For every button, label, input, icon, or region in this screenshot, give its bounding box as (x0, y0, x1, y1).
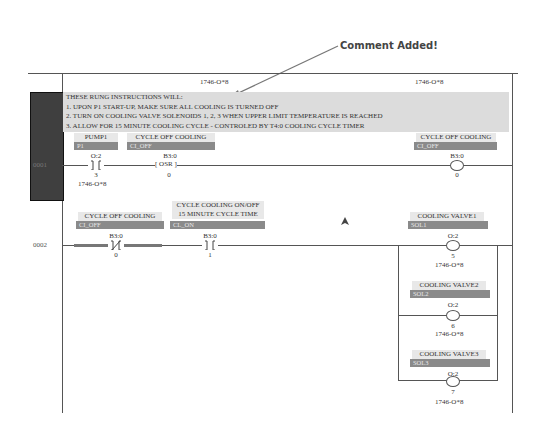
instruction-symbol: CI_OFF (414, 142, 497, 150)
instruction-symbol: CI_OFF (76, 221, 164, 229)
instruction-bit: 5 (447, 252, 459, 260)
rung-number-0001: 0001 (33, 161, 47, 169)
rung-comment[interactable]: THESE RUNG INSTRUCTIONS WILL: 1. UPON P1… (63, 92, 509, 132)
instruction-bit: 0 (451, 171, 463, 179)
instruction-bit: 3 (90, 171, 102, 179)
rung-0001-line (62, 165, 512, 166)
instruction-bit: 1 (204, 251, 216, 259)
output-coil-icon[interactable] (446, 376, 460, 387)
top-border (28, 73, 518, 74)
instruction-bit: 6 (447, 322, 459, 330)
instruction-module: 1746-O*8 (435, 261, 463, 269)
output-coil-icon[interactable] (446, 240, 460, 251)
rung-comment-line: THESE RUNG INSTRUCTIONS WILL: (66, 93, 506, 103)
branch-right-rail (497, 245, 498, 380)
instruction-address: B3:0 (157, 152, 183, 160)
instruction-module: 1746-O*8 (435, 330, 463, 338)
branch-left-rail (398, 245, 399, 380)
osr-label: OSR (159, 160, 173, 168)
instruction-description: CYCLE COOLING ON/OFF 15 MINUTE CYCLE TIM… (172, 201, 264, 219)
instruction-description: PUMP1 (74, 133, 118, 142)
mouse-cursor-icon (340, 216, 350, 226)
instruction-address: B3:0 (444, 152, 470, 160)
instruction-symbol: SOL3 (410, 359, 490, 367)
instruction-address: O:2 (84, 152, 108, 160)
output-coil-icon[interactable] (446, 310, 460, 321)
instruction-module: 1746-O*8 (78, 180, 106, 188)
instruction-address: B3:0 (103, 232, 129, 240)
instruction-address: O:2 (440, 301, 466, 309)
instruction-bit: 7 (447, 388, 459, 396)
instruction-description: CYCLE OFF COOLING (416, 133, 496, 142)
xio-contact-icon[interactable] (108, 240, 124, 250)
rung-number-0002: 0002 (33, 241, 47, 249)
rung-comment-line: 3. ALLOW FOR 15 MINUTE COOLING CYCLE - C… (66, 122, 506, 132)
instruction-symbol: SOL2 (410, 290, 490, 298)
right-power-rail (512, 73, 513, 413)
instruction-symbol: SOL1 (408, 221, 488, 229)
instruction-description: COOLING VALVE2 (412, 281, 486, 290)
instruction-description: CYCLE OFF COOLING (78, 212, 162, 221)
instruction-bit: 0 (163, 171, 175, 179)
instruction-symbol: P1 (74, 142, 118, 150)
rung-comment-line: 1. UPON P1 START-UP, MAKE SURE ALL COOLI… (66, 103, 506, 113)
rung-comment-line: 2. TURN ON COOLING VALVE SOLENOIDS 1, 2,… (66, 112, 506, 122)
instruction-module: 1746-O*8 (435, 398, 463, 406)
rung-selection-marker[interactable] (30, 92, 64, 201)
instruction-address: O:2 (440, 232, 466, 240)
module-label-right: 1746-O*8 (415, 78, 443, 86)
instruction-description-line: 15 MINUTE CYCLE TIME (172, 210, 264, 219)
instruction-bit: 0 (110, 251, 122, 259)
instruction-description: COOLING VALVE1 (410, 212, 484, 221)
instruction-description-line: CYCLE COOLING ON/OFF (172, 201, 264, 210)
xic-contact-icon[interactable] (202, 240, 218, 250)
xic-contact-icon[interactable] (88, 160, 104, 170)
module-label-left: 1746-O*8 (200, 78, 228, 86)
instruction-symbol: CL_ON (170, 221, 265, 229)
instruction-description: COOLING VALVE3 (412, 350, 486, 359)
instruction-symbol: CI_OFF (127, 142, 215, 150)
bracket-right-icon: ] (173, 160, 177, 168)
instruction-address: B3:0 (197, 232, 223, 240)
output-coil-icon[interactable] (450, 160, 464, 171)
osr-instruction[interactable]: [ OSR ] (155, 160, 177, 169)
instruction-description: CYCLE OFF COOLING (127, 133, 215, 142)
